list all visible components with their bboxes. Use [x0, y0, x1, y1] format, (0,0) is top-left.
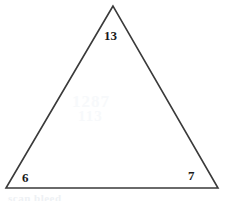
- triangle-figure: 1287 113 scan bleed 13 6 7: [0, 0, 227, 201]
- vertex-label-bottom-right: 7: [188, 169, 195, 182]
- vertex-label-bottom-left: 6: [22, 171, 29, 184]
- vertex-label-apex: 13: [104, 29, 117, 42]
